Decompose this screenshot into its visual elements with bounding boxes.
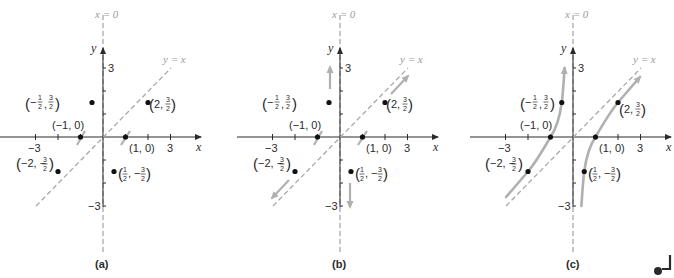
label-neg2-neg3-2: ( −2, − 3 2 ) xyxy=(16,155,54,172)
svg-text:3: 3 xyxy=(544,94,548,101)
label-neg-half-3-2: ( − 1 2 , 3 2 ) xyxy=(262,94,297,112)
svg-text:3: 3 xyxy=(378,166,382,173)
svg-text:−: − xyxy=(267,96,273,108)
point-1-0 xyxy=(123,134,128,139)
svg-text:2: 2 xyxy=(533,103,537,110)
x-tick-label-3: 3 xyxy=(167,142,173,154)
label-neg-half-3-2: ( − 1 2 , 3 2 ) xyxy=(520,94,555,112)
svg-text:): ) xyxy=(286,155,291,172)
label-2-3-2: ( 2, 3 2 ) xyxy=(149,96,176,113)
y-axis-label: y xyxy=(90,41,97,55)
point-neg1-0 xyxy=(548,134,553,139)
svg-text:): ) xyxy=(171,96,176,113)
svg-text:3: 3 xyxy=(636,101,640,108)
svg-text:3: 3 xyxy=(512,156,516,163)
svg-text:): ) xyxy=(518,155,523,172)
svg-text:−: − xyxy=(525,96,531,108)
panel-a: x = 0 x y −3 3 3 −3 y = x ( − 1 xyxy=(0,8,202,270)
svg-text:2: 2 xyxy=(275,103,279,110)
svg-text:): ) xyxy=(616,165,621,182)
y-axis-label: y xyxy=(327,41,334,55)
svg-text:2: 2 xyxy=(611,175,615,182)
svg-text:): ) xyxy=(292,95,297,112)
svg-text:): ) xyxy=(550,95,555,112)
svg-text:): ) xyxy=(55,95,60,112)
svg-text:2: 2 xyxy=(512,165,516,172)
label-half-neg3-2: ( 1 2 , − 3 2 ) xyxy=(118,165,151,182)
svg-text:2,: 2, xyxy=(154,98,163,110)
oblique-asymptote-label: y = x xyxy=(399,53,423,65)
x-tick-label-neg3: −3 xyxy=(498,142,511,154)
svg-text:−: − xyxy=(30,96,36,108)
svg-text:2: 2 xyxy=(636,110,640,117)
svg-text:1: 1 xyxy=(275,94,279,101)
label-1-0: (1, 0) xyxy=(129,142,155,154)
label-neg1-0: (−1, 0) xyxy=(289,119,321,131)
svg-text:2: 2 xyxy=(123,175,127,182)
x-tick-label-neg3: −3 xyxy=(265,142,278,154)
vertical-asymptote-label: x = 0 xyxy=(331,8,356,20)
label-neg2-neg3-2: ( −2, − 3 2 ) xyxy=(253,155,291,172)
svg-text:2: 2 xyxy=(43,165,47,172)
point-neg2-neg3-2 xyxy=(525,169,530,174)
x-tick-label-3: 3 xyxy=(404,142,410,154)
label-neg1-0: (−1, 0) xyxy=(52,119,84,131)
label-1-0: (1, 0) xyxy=(366,142,392,154)
curve-left-branch xyxy=(506,68,565,197)
svg-text:): ) xyxy=(49,155,54,172)
panel-c: x = 0 x y −3 3 3 −3 y = x ( − 1 xyxy=(470,8,672,270)
svg-text:1: 1 xyxy=(38,94,42,101)
panel-label-b: (b) xyxy=(332,258,346,270)
x-axis-label: x xyxy=(432,140,439,154)
svg-text:2,: 2, xyxy=(391,98,400,110)
oblique-asymptote-label: y = x xyxy=(162,53,186,65)
x-tick-label-neg3: −3 xyxy=(28,142,41,154)
y-tick-label-neg3: −3 xyxy=(325,200,338,212)
y-tick-label-neg3: −3 xyxy=(88,200,101,212)
label-neg-half-3-2: ( − 1 2 , 3 2 ) xyxy=(25,94,60,112)
svg-text:3: 3 xyxy=(611,166,615,173)
svg-text:3: 3 xyxy=(49,94,53,101)
point-neg-half-3-2 xyxy=(326,100,331,105)
point-neg2-neg3-2 xyxy=(55,169,60,174)
y-tick-label-3: 3 xyxy=(108,62,114,74)
label-1-0: (1, 0) xyxy=(599,142,625,154)
svg-text:3: 3 xyxy=(141,166,145,173)
svg-text:3: 3 xyxy=(166,96,170,103)
panel-label-a: (a) xyxy=(95,258,109,270)
x-axis-label: x xyxy=(665,140,672,154)
svg-text:2: 2 xyxy=(544,103,548,110)
svg-text:2,: 2, xyxy=(624,103,633,115)
svg-text:1: 1 xyxy=(593,166,597,173)
svg-text:1: 1 xyxy=(533,94,537,101)
point-half-neg3-2 xyxy=(348,169,353,174)
svg-text:2: 2 xyxy=(166,105,170,112)
svg-text:, −: , − xyxy=(365,167,378,179)
svg-text:): ) xyxy=(408,96,413,113)
panel-label-c: (c) xyxy=(566,258,580,270)
svg-text:3: 3 xyxy=(403,96,407,103)
label-2-3-2: ( 2, 3 2 ) xyxy=(619,101,646,118)
svg-text:2: 2 xyxy=(280,165,284,172)
point-neg2-neg3-2 xyxy=(292,169,297,174)
y-tick-label-neg3: −3 xyxy=(558,200,571,212)
svg-text:3: 3 xyxy=(43,156,47,163)
point-neg1-0 xyxy=(78,134,83,139)
label-neg1-0: (−1, 0) xyxy=(520,119,552,131)
x-tick-label-3: 3 xyxy=(637,142,643,154)
point-1-0 xyxy=(360,134,365,139)
svg-text:2: 2 xyxy=(593,175,597,182)
y-tick-label-3: 3 xyxy=(345,62,351,74)
svg-text:, −: , − xyxy=(128,167,141,179)
svg-text:2: 2 xyxy=(38,103,42,110)
point-half-neg3-2 xyxy=(582,169,587,174)
section-end-marker-icon xyxy=(654,255,670,275)
oblique-asymptote-label: y = x xyxy=(632,53,656,65)
svg-text:,: , xyxy=(539,98,542,110)
label-neg2-neg3-2: ( −2, − 3 2 ) xyxy=(485,155,523,172)
svg-text:2: 2 xyxy=(403,105,407,112)
y-tick-label-3: 3 xyxy=(578,62,584,74)
arrow-up-along-oblique xyxy=(391,76,408,94)
svg-text:2: 2 xyxy=(49,103,53,110)
svg-text:2: 2 xyxy=(286,103,290,110)
